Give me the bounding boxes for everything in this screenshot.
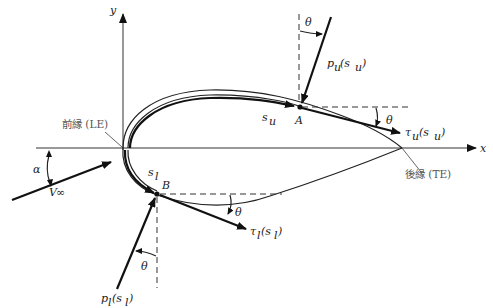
- s-upper-label: s u: [262, 111, 276, 128]
- svg-text:l: l: [155, 170, 159, 183]
- shear-lower-arrow: [160, 195, 246, 229]
- theta-lower-shear: θ: [235, 206, 242, 219]
- theta-upper-shear: θ: [386, 114, 393, 127]
- s-lower-label: s l: [148, 166, 159, 183]
- x-axis-label: x: [480, 142, 487, 155]
- svg-text:(s: (s: [419, 126, 429, 139]
- svg-text:s: s: [262, 111, 268, 124]
- pressure-lower-arrow: [117, 198, 155, 289]
- svg-text:u: u: [269, 115, 276, 128]
- trailing-edge-label: 後縁 (TE): [405, 168, 451, 180]
- pressure-upper-label: p u (s u ): [327, 57, 366, 74]
- pressure-lower-label: p l (s l ): [101, 292, 133, 308]
- svg-text:p: p: [327, 57, 334, 70]
- theta-arc-upper-shear: [376, 108, 378, 126]
- shear-upper-label: τ u (s u ): [405, 126, 445, 143]
- freestream-label: V ∞: [49, 186, 65, 199]
- svg-text:τ: τ: [250, 225, 257, 238]
- shear-lower-label: τ l (s l ): [250, 225, 282, 242]
- theta-upper-pressure: θ: [305, 16, 312, 29]
- svg-text:∞: ∞: [56, 186, 65, 199]
- point-a-label: A: [294, 114, 303, 127]
- svg-text:): ): [277, 225, 282, 238]
- theta-arc-lower-pressure: [136, 251, 156, 256]
- y-axis-label: y: [109, 4, 117, 17]
- svg-text:(s: (s: [261, 225, 271, 238]
- svg-text:s: s: [148, 166, 154, 179]
- alpha-arc-head-top: [46, 150, 52, 157]
- point-b: [154, 191, 159, 196]
- point-b-label: B: [161, 179, 170, 192]
- svg-text:): ): [440, 126, 445, 139]
- svg-text:p: p: [101, 292, 108, 305]
- alpha-label: α: [33, 163, 41, 176]
- svg-text:(s: (s: [340, 57, 350, 70]
- airfoil-diagram: y x 前縁 (LE) 後縁 (TE) A s u θ p u (s u ): [0, 0, 493, 308]
- svg-text:): ): [361, 57, 366, 70]
- svg-text:τ: τ: [405, 126, 412, 139]
- alpha-arc: [47, 155, 50, 183]
- svg-text:(s: (s: [112, 292, 122, 305]
- svg-text:): ): [128, 292, 133, 305]
- le-leader-line: [105, 132, 122, 147]
- theta-lower-pressure: θ: [141, 260, 148, 273]
- theta-arc-upper-pressure: [300, 31, 322, 34]
- leading-edge-label: 前縁 (LE): [62, 118, 108, 130]
